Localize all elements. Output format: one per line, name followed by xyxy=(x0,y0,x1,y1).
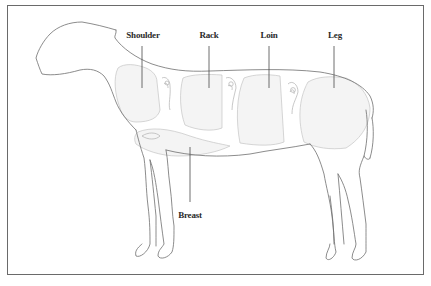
rack-loin-joint xyxy=(226,77,236,110)
rear-outline xyxy=(310,144,336,260)
label-loin: Loin xyxy=(260,30,277,40)
loin-cut xyxy=(237,75,284,145)
label-leg: Leg xyxy=(328,30,342,40)
leg-cut xyxy=(300,77,370,149)
hind-leg-inner xyxy=(330,174,344,244)
cut-regions xyxy=(115,65,370,156)
front-leg-back xyxy=(150,150,174,258)
loin-leg-joint xyxy=(288,82,298,114)
rack-cut xyxy=(181,74,222,130)
label-shoulder: Shoulder xyxy=(126,30,159,40)
lamb-illustration xyxy=(0,0,431,286)
front-leg-inner xyxy=(150,160,156,246)
hind-leg-back xyxy=(338,156,366,260)
label-breast: Breast xyxy=(178,210,202,220)
label-rack: Rack xyxy=(199,30,218,40)
